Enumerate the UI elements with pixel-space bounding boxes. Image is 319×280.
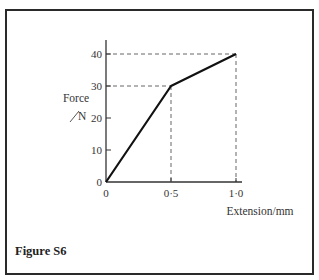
force-extension-chart: 010203040 0·51·0 0 Extension/mm Force N	[0, 0, 319, 280]
y-axis-unit: N	[78, 110, 87, 122]
y-ticks: 010203040	[91, 48, 111, 188]
x-ticks: 0·51·0	[164, 178, 244, 199]
x-origin-label: 0	[103, 187, 109, 199]
y-tick-label: 20	[91, 112, 103, 124]
x-tick-label: 0·5	[164, 187, 179, 199]
y-tick-label: 30	[91, 80, 103, 92]
guide-lines	[106, 54, 236, 182]
y-tick-label: 40	[91, 48, 103, 60]
y-tick-label: 10	[91, 144, 103, 156]
x-axis-title: Extension/mm	[226, 205, 293, 217]
x-tick-label: 1·0	[229, 187, 244, 199]
figure-caption: Figure S6	[15, 244, 67, 259]
y-axis-title: Force	[63, 92, 89, 104]
y-tick-label: 0	[97, 176, 103, 188]
